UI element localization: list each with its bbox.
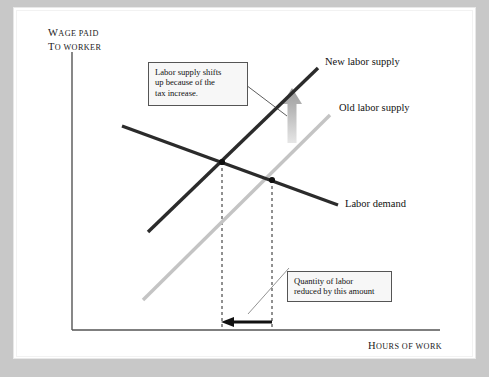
equilibrium-point-old: [269, 177, 275, 183]
callout-supply-shift-line3: tax increase.: [155, 88, 242, 98]
callout-quantity-reduced: Quantity of labor reduced by this amount: [287, 271, 392, 302]
callout-quantity-line2: reduced by this amount: [294, 286, 386, 296]
dashed-guide-lines: [222, 162, 272, 330]
callout-supply-shift: Labor supply shifts up because of the ta…: [148, 62, 248, 106]
leader-line-supply-shift: [246, 85, 287, 116]
quantity-reduction-arrow: [221, 317, 272, 327]
y-axis-label-line2: O WORKER: [55, 43, 102, 52]
supply-shift-arrow: [282, 88, 302, 143]
new-labor-supply-label: New labor supply: [325, 56, 400, 67]
callout-supply-shift-line2: up because of the: [155, 77, 242, 87]
callout-supply-shift-line1: Labor supply shifts: [155, 67, 242, 77]
labor-demand-label: Labor demand: [345, 198, 406, 209]
y-axis-label-line2-t: T: [48, 41, 55, 52]
figure-outer-frame: WAGE PAID TO WORKER HOURS OF WORK New la…: [0, 0, 489, 377]
x-axis-label-wrap: HOURS OF WORK: [368, 340, 442, 353]
y-axis-label-line2-wrap: TO WORKER: [48, 41, 101, 54]
y-axis-label-line1-w: W: [48, 27, 58, 38]
leader-line-quantity: [248, 268, 289, 314]
equilibrium-point-new: [219, 159, 225, 165]
old-labor-supply-label: Old labor supply: [339, 102, 410, 113]
callout-quantity-line1: Quantity of labor: [294, 276, 386, 286]
y-axis-label-line1: AGE PAID: [58, 29, 98, 38]
y-axis-label: WAGE PAID: [48, 27, 99, 40]
x-axis-label-h: H: [368, 340, 376, 351]
labor-market-diagram: [0, 0, 489, 377]
x-axis-label: OURS OF WORK: [376, 342, 442, 351]
